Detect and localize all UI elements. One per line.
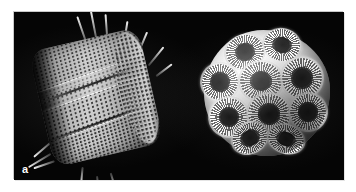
diatom-stage [14,12,187,180]
figure-plate: a b [14,12,344,180]
coccolithophore-image [200,26,334,160]
panel-b-coccolithophore: b [180,12,344,180]
diatom-spine [148,46,165,66]
diatom-spine [110,173,118,180]
diatom-frustule [28,27,164,167]
figure-root: a b [0,0,356,192]
diatom-spine [80,167,84,180]
panel-label-a: a [22,164,28,175]
coccosphere-body [204,30,330,156]
diatom-image [22,20,172,172]
diatom-spine [155,63,172,77]
panel-a-diatom: a [14,12,180,180]
diatom-spine [96,176,101,180]
